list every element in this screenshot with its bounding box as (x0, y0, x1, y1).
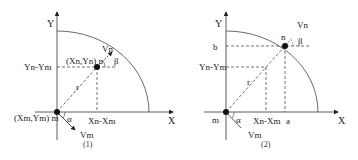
vn-label: Vn (102, 44, 113, 54)
x-axis-label: X (338, 115, 346, 126)
point-m-label: m (212, 115, 219, 125)
diagram-canvas: Y X (Xn,Yn) n (Xm,Ym) m Vn Vm β α r Yn-Y… (0, 0, 358, 160)
beta-label: β (298, 36, 303, 46)
beta-label: β (114, 56, 119, 66)
alpha-label: α (67, 114, 72, 124)
point-n-label: n (281, 32, 286, 42)
beta-arc (103, 61, 105, 67)
y-diff-label: Yn-Ym (199, 62, 227, 72)
vn-label: Vn (297, 20, 308, 30)
quarter-arc (226, 31, 318, 112)
vm-label: Vm (80, 130, 94, 140)
point-n (282, 43, 288, 49)
point-m (223, 109, 229, 115)
b-label: b (213, 42, 218, 52)
vm-label: Vm (248, 130, 262, 140)
y-axis-label: Y (47, 18, 54, 29)
point-n-label: (Xn,Yn) n (66, 56, 103, 66)
y-diff-label: Yn-Ym (24, 62, 52, 72)
r-line (226, 46, 285, 112)
r-label: r (247, 77, 250, 87)
x-axis-label: X (168, 115, 176, 126)
diagram-1: Y X (Xn,Yn) n (Xm,Ym) m Vn Vm β α r Yn-Y… (14, 12, 176, 149)
y-axis-label: Y (215, 18, 222, 29)
r-label: r (76, 82, 79, 92)
point-m-label: (Xm,Ym) m (14, 113, 59, 123)
caption: (1) (83, 140, 93, 149)
alpha-arc (63, 112, 65, 118)
beta-arc (291, 40, 293, 46)
a-label: a (286, 116, 290, 126)
vm-vector (57, 112, 75, 130)
alpha-arc (232, 112, 234, 118)
alpha-label: α (236, 115, 241, 125)
caption: (2) (261, 140, 271, 149)
x-diff-label: Xn-Xm (88, 116, 116, 126)
x-diff-label: Xn-Xm (253, 116, 281, 126)
diagram-2: Y X n m Vn Vm β α r b Yn-Ym Xn-Xm a (2) (199, 12, 346, 149)
